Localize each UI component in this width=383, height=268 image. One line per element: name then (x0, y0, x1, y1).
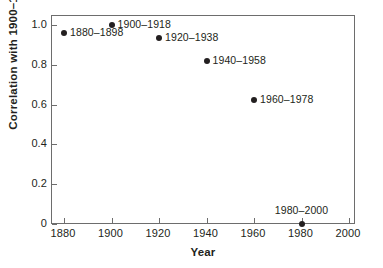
point-marker (156, 35, 162, 41)
x-tick-3 (207, 218, 208, 223)
point-label: 1880–1898 (70, 26, 123, 38)
plot-area: 1880–1898 1900–1918 1920–1938 1940–1958 … (51, 15, 355, 224)
x-tick-6 (349, 218, 350, 223)
x-tick-label-6: 2000 (318, 228, 378, 239)
point-label: 1920–1938 (165, 31, 218, 43)
y-tick-0 (52, 224, 57, 225)
point-marker (251, 97, 257, 103)
y-tick-1 (52, 184, 57, 185)
point-marker (299, 221, 305, 227)
y-tick-4 (52, 65, 57, 66)
x-axis-title: Year (51, 246, 355, 258)
y-tick-5 (52, 25, 57, 26)
y-tick-label-1: 0.2 (1, 178, 47, 189)
point-label: 1940–1958 (213, 54, 266, 66)
point-label: 1900–1918 (118, 18, 171, 30)
x-tick-2 (159, 218, 160, 223)
point-marker (204, 58, 210, 64)
point-marker (61, 30, 67, 36)
y-tick-2 (52, 144, 57, 145)
point-label: 1960–1978 (260, 93, 313, 105)
x-tick-1 (112, 218, 113, 223)
chart-figure: 1880–1898 1900–1918 1920–1938 1940–1958 … (0, 0, 383, 268)
point-label: 1980–2000 (275, 204, 328, 216)
y-tick-3 (52, 105, 57, 106)
y-axis-title: Correlation with 1900–1918 (7, 0, 19, 133)
x-tick-0 (64, 218, 65, 223)
point-marker (109, 22, 115, 28)
x-tick-4 (254, 218, 255, 223)
y-tick-label-2: 0.4 (1, 138, 47, 149)
